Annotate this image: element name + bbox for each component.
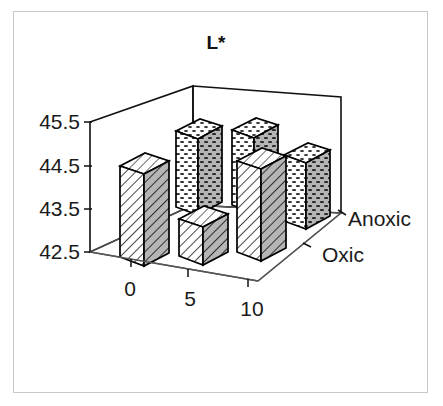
bar-side-face xyxy=(261,156,286,261)
bar-oxic-5 xyxy=(179,206,228,265)
bar-front-face xyxy=(176,131,198,215)
y-axis: 45.5 44.5 43.5 42.5 xyxy=(39,110,92,263)
depth-label-anoxic: Anoxic xyxy=(348,207,411,230)
y-axis-label-43-5: 43.5 xyxy=(39,197,80,220)
depth-label-oxic: Oxic xyxy=(322,243,364,266)
x-axis: 0 5 10 xyxy=(90,252,264,320)
depth-tick-oxic xyxy=(303,243,311,247)
bar-oxic-0 xyxy=(120,153,169,266)
bar-side-face xyxy=(144,161,169,266)
bar-oxic-10 xyxy=(237,148,286,261)
three-d-bar-chart: 45.5 44.5 43.5 42.5 xyxy=(0,0,443,406)
y-axis-label-45-5: 45.5 xyxy=(39,110,80,133)
x-axis-label-5: 5 xyxy=(184,287,196,310)
bar-anoxic-10 xyxy=(284,143,330,229)
bar-anoxic-0 xyxy=(176,119,222,215)
x-axis-label-0: 0 xyxy=(124,277,136,300)
y-axis-label-42-5: 42.5 xyxy=(39,240,80,263)
bar-side-face xyxy=(306,150,330,229)
page-title: L* xyxy=(207,32,227,53)
bar-front-face xyxy=(284,155,306,229)
y-axis-label-44-5: 44.5 xyxy=(39,154,80,177)
x-axis-label-10: 10 xyxy=(240,297,263,320)
bar-side-face xyxy=(198,126,222,215)
bar-front-face xyxy=(237,161,261,261)
chart-figure: 45.5 44.5 43.5 42.5 xyxy=(0,0,443,406)
bar-front-face xyxy=(120,166,144,266)
x-axis-line xyxy=(90,252,258,281)
bar-front-face xyxy=(179,219,203,265)
